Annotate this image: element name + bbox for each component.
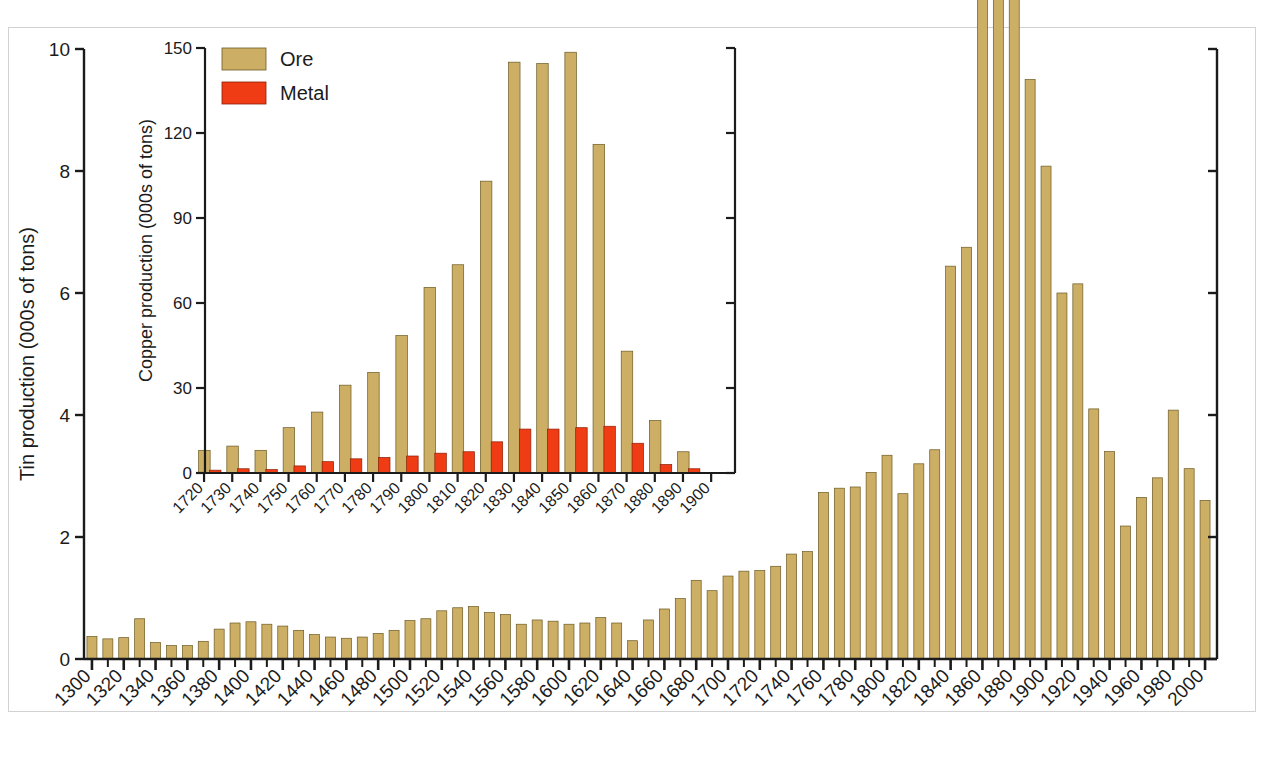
main-y-tick-label: 10 xyxy=(49,39,70,60)
main-bar-ore xyxy=(230,623,240,659)
main-bar-ore xyxy=(1009,0,1019,659)
main-bar-ore xyxy=(612,623,622,659)
main-bar-ore xyxy=(1073,284,1083,659)
main-bar-ore xyxy=(310,635,320,659)
main-bar-ore xyxy=(993,0,1003,659)
main-bar-ore xyxy=(675,599,685,659)
main-y-tick-label: 4 xyxy=(59,405,70,426)
main-bar-ore xyxy=(1200,500,1210,659)
main-y-tick-label: 2 xyxy=(59,527,70,548)
inset-bar-metal xyxy=(350,459,362,473)
main-bar-ore xyxy=(834,488,844,659)
main-bar-ore xyxy=(1121,526,1131,659)
inset-bar-metal xyxy=(491,442,503,473)
main-bar-ore xyxy=(532,620,542,659)
main-y-axis-title: Tin production (000s of tons) xyxy=(16,227,38,481)
legend-swatch-ore xyxy=(222,48,266,70)
main-bar-ore xyxy=(500,614,510,659)
inset-bar-ore xyxy=(678,452,690,473)
inset-bar-ore xyxy=(368,372,380,473)
main-bar-ore xyxy=(755,571,765,659)
inset-y-tick-label: 60 xyxy=(173,294,192,313)
main-bar-ore xyxy=(723,576,733,659)
main-bar-ore xyxy=(135,619,145,659)
main-bar-ore xyxy=(278,626,288,659)
legend-label-ore: Ore xyxy=(280,48,313,70)
main-bar-ore xyxy=(373,633,383,659)
main-bar-ore xyxy=(214,629,224,659)
inset-bar-metal xyxy=(660,465,672,474)
inset-y-tick-label: 120 xyxy=(164,124,192,143)
main-bar-ore xyxy=(294,630,304,659)
inset-bar-ore xyxy=(621,351,633,473)
inset-bar-ore xyxy=(537,64,549,473)
inset-bar-ore xyxy=(311,412,323,473)
main-bar-ore xyxy=(103,639,113,659)
main-bar-ore xyxy=(357,637,367,659)
inset-bar-metal xyxy=(548,429,560,473)
inset-bar-metal xyxy=(407,456,419,473)
main-bar-ore xyxy=(246,622,256,659)
main-bar-ore xyxy=(1057,293,1067,659)
inset-bar-metal xyxy=(378,457,390,473)
main-bar-ore xyxy=(914,464,924,659)
main-bar-ore xyxy=(166,646,176,659)
main-x-tick-label: 2000 xyxy=(1163,665,1208,710)
main-bar-ore xyxy=(946,266,956,659)
main-bar-ore xyxy=(930,450,940,659)
main-bar-ore xyxy=(580,623,590,659)
inset-bar-ore xyxy=(424,287,436,473)
main-bar-ore xyxy=(850,487,860,659)
inset-bar-metal xyxy=(632,443,644,473)
inset-bar-ore xyxy=(480,181,492,473)
main-bar-ore xyxy=(421,619,431,659)
inset-bar-ore xyxy=(593,144,605,473)
main-bar-ore xyxy=(325,637,335,659)
main-bar-ore xyxy=(628,641,638,659)
inset-bar-ore xyxy=(452,265,464,473)
inset-bar-ore xyxy=(396,336,408,473)
main-bar-ore xyxy=(469,607,479,659)
inset-y-tick-label: 0 xyxy=(183,464,192,483)
main-bar-ore xyxy=(1152,478,1162,659)
main-bar-ore xyxy=(1089,409,1099,659)
legend-label-metal: Metal xyxy=(280,82,329,104)
inset-y-axis-title: Copper production (000s of tons) xyxy=(136,119,156,382)
main-bar-ore xyxy=(548,621,558,659)
main-bar-ore xyxy=(691,580,701,659)
main-x-ticks: 1300132013401360138014001420144014601480… xyxy=(50,659,1208,710)
main-bar-ore xyxy=(1025,80,1035,660)
inset-bar-metal xyxy=(519,429,531,473)
main-bar-ore xyxy=(962,247,972,659)
main-bar-ore xyxy=(262,624,272,659)
main-bar-ore xyxy=(1168,410,1178,659)
main-bar-ore xyxy=(1105,452,1115,659)
main-bar-ore xyxy=(453,608,463,659)
main-bar-ore xyxy=(644,620,654,659)
main-bar-ore xyxy=(803,552,813,659)
main-bar-ore xyxy=(882,455,892,659)
main-bar-ore xyxy=(787,554,797,659)
main-bar-ore xyxy=(866,472,876,659)
main-bar-ore xyxy=(341,638,351,659)
main-bar-ore xyxy=(87,636,97,659)
main-bar-ore xyxy=(818,492,828,659)
main-bar-ore xyxy=(659,609,669,659)
main-bar-ore xyxy=(1136,497,1146,659)
inset-bar-metal xyxy=(604,426,616,473)
main-y-tick-label: 6 xyxy=(59,283,70,304)
inset-bar-ore xyxy=(565,52,577,473)
inset-bar-ore xyxy=(649,421,661,473)
main-bar-ore xyxy=(119,638,129,659)
main-y-tick-label: 8 xyxy=(59,161,70,182)
inset-y-tick-label: 90 xyxy=(173,209,192,228)
inset-bar-metal xyxy=(463,452,475,473)
main-bar-ore xyxy=(484,613,494,659)
main-bar-ore xyxy=(707,591,717,659)
inset-bar-metal xyxy=(576,428,588,473)
inset-bar-ore xyxy=(340,385,352,473)
main-bar-ore xyxy=(516,624,526,659)
main-bar-ore xyxy=(771,566,781,659)
figure-root: 0246810130013201340136013801400142014401… xyxy=(0,0,1266,758)
inset-bar-ore xyxy=(509,62,521,473)
